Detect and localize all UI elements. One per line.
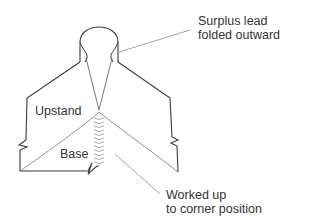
worked-label-line1: Worked up xyxy=(166,188,226,202)
fold-v-lines xyxy=(86,58,112,110)
base-bottom-edge xyxy=(20,163,99,174)
right-upstand-outline xyxy=(118,62,178,172)
upstand-label: Upstand xyxy=(35,104,82,118)
surplus-label-line2: folded outward xyxy=(198,28,280,42)
surplus-leader-line xyxy=(119,30,190,52)
surplus-label-line1: Surplus lead xyxy=(198,14,268,28)
base-label: Base xyxy=(60,147,89,161)
worked-leader-line xyxy=(115,154,160,194)
base-right-diagonal xyxy=(99,112,178,172)
surplus-fold-outline xyxy=(80,27,118,62)
worked-label-line2: to corner position xyxy=(166,202,262,216)
base-left-diagonal xyxy=(20,112,99,171)
worked-ripples xyxy=(94,118,104,164)
